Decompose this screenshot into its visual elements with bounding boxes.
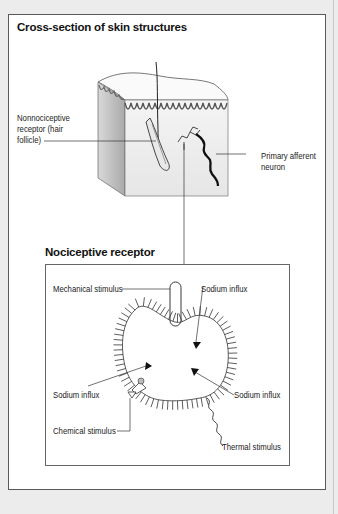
nociceptive-receptor-illustration (0, 0, 338, 514)
sodium-influx-left-label: Sodium influx (53, 390, 99, 401)
sodium-influx-right-label: Sodium influx (234, 390, 280, 401)
mechanical-stimulus-label: Mechanical stimulus (53, 284, 123, 295)
chemical-stimulus-label: Chemical stimulus (53, 426, 116, 437)
thermal-stimulus-label: Thermal stimulus (222, 442, 281, 453)
sodium-influx-top-label: Sodium influx (201, 284, 247, 295)
